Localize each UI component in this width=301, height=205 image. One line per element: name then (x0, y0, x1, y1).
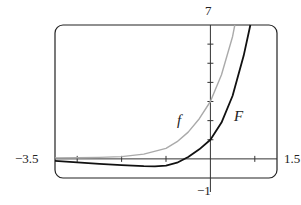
curve-f (55, 25, 235, 158)
chart-svg (0, 0, 301, 205)
ymin-label: −1 (197, 183, 211, 199)
plot-frame (55, 25, 277, 178)
axes (55, 25, 277, 192)
curve-F (55, 25, 250, 166)
f-curve-label: f (177, 112, 181, 129)
F-curve-label: F (234, 108, 243, 125)
xmax-label: 1.5 (284, 151, 300, 167)
ymax-label: 7 (205, 3, 212, 19)
xmin-label: −3.5 (15, 151, 39, 167)
curves (55, 25, 250, 166)
